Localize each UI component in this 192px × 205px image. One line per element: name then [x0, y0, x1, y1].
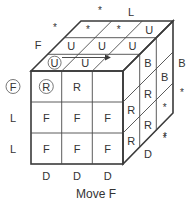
- top-cell: *: [86, 24, 90, 35]
- bottom-label: D: [42, 170, 50, 182]
- right-back-label: *: [180, 87, 184, 98]
- top-cell: U: [51, 57, 59, 69]
- bottom-label: D: [104, 170, 112, 182]
- front-cell: F: [43, 112, 50, 124]
- top-back-label: *: [98, 5, 102, 16]
- bottom-label: D: [73, 170, 81, 182]
- front-cell: F: [43, 143, 50, 155]
- front-cell: F: [74, 143, 81, 155]
- top-back-label: L: [128, 6, 134, 18]
- front-cell: F: [104, 112, 111, 124]
- front-cell: R: [42, 81, 50, 93]
- front-cell: F: [104, 143, 111, 155]
- right-cell: R: [127, 135, 135, 147]
- rubiks-cube-diagram: R R F F F F F F U U U U U * * U B R R B …: [0, 0, 192, 205]
- top-back-label: *: [53, 22, 57, 33]
- top-cell: U: [98, 40, 106, 52]
- front-cell: F: [74, 112, 81, 124]
- top-left-label: F: [35, 39, 42, 51]
- right-bottom-label: D: [144, 148, 152, 160]
- right-cell: R: [144, 88, 152, 100]
- left-label: L: [10, 143, 16, 155]
- left-label: L: [10, 112, 16, 124]
- right-back-label: *: [163, 131, 167, 142]
- top-cell: U: [67, 40, 75, 52]
- front-cell: R: [73, 81, 81, 93]
- top-cell: U: [129, 40, 137, 52]
- front-face-labels: R R F F F F F F: [39, 80, 111, 156]
- right-cell: B: [161, 71, 168, 83]
- right-cell: *: [163, 102, 167, 113]
- left-label: F: [10, 81, 17, 93]
- right-back-label: B: [178, 57, 185, 69]
- right-cell: R: [144, 119, 152, 131]
- right-cell: B: [144, 57, 151, 69]
- right-cell: R: [127, 104, 135, 116]
- outer-labels: F L L D D D F * * L B * * D: [6, 5, 186, 183]
- top-cell: U: [145, 24, 153, 36]
- caption: Move F: [76, 187, 116, 201]
- top-cell: *: [117, 24, 121, 35]
- top-cell: U: [81, 57, 89, 69]
